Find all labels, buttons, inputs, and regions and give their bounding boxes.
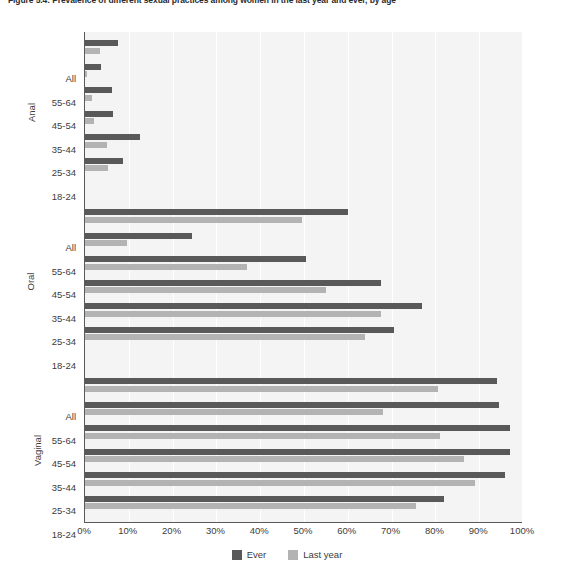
category-label: 25-34 <box>52 505 76 516</box>
bar-oral-All-last-year <box>85 217 302 223</box>
category-label: 18-24 <box>52 360 76 371</box>
bar-anal-55-64-ever <box>85 64 101 70</box>
bar-vaginal-18-24-last-year <box>85 503 416 509</box>
legend-swatch-ever <box>232 550 242 560</box>
group-label-oral: Oral <box>25 272 36 290</box>
category-label: 45-54 <box>52 120 76 131</box>
x-tick-label: 0% <box>77 525 91 536</box>
category-label: All <box>65 411 76 422</box>
chart-plot-area <box>84 32 522 523</box>
x-tick-label: 50% <box>293 525 312 536</box>
bar-oral-18-24-last-year <box>85 334 365 340</box>
bar-anal-25-34-ever <box>85 134 140 140</box>
bar-oral-35-44-ever <box>85 280 381 286</box>
bar-oral-25-34-last-year <box>85 311 381 317</box>
bar-vaginal-55-64-ever <box>85 402 499 408</box>
category-label: 35-44 <box>52 144 76 155</box>
gridline <box>523 32 524 522</box>
category-label: All <box>65 242 76 253</box>
bar-anal-18-24-last-year <box>85 165 108 171</box>
category-label: 45-54 <box>52 458 76 469</box>
bar-oral-18-24-ever <box>85 327 394 333</box>
category-label: 55-64 <box>52 97 76 108</box>
bar-oral-25-34-ever <box>85 303 422 309</box>
legend-label-last_year: Last year <box>303 549 342 560</box>
x-tick-label: 60% <box>337 525 356 536</box>
bar-anal-25-34-last-year <box>85 142 107 148</box>
group-label-vaginal: Vaginal <box>32 435 43 466</box>
bar-vaginal-35-44-ever <box>85 449 510 455</box>
bar-oral-55-64-last-year <box>85 240 127 246</box>
bar-anal-35-44-ever <box>85 111 113 117</box>
figure-title: Figure 5.4: Prevalence of different sexu… <box>8 0 568 5</box>
category-label: 25-34 <box>52 167 76 178</box>
bar-vaginal-35-44-last-year <box>85 456 464 462</box>
bar-vaginal-45-54-last-year <box>85 433 440 439</box>
bar-anal-35-44-last-year <box>85 118 94 124</box>
x-tick-label: 40% <box>250 525 269 536</box>
category-label: 35-44 <box>52 482 76 493</box>
bar-vaginal-All-ever <box>85 378 497 384</box>
x-tick-label: 100% <box>510 525 534 536</box>
legend-item-ever: Ever <box>232 549 267 560</box>
group-label-anal: Anal <box>26 102 37 121</box>
bar-anal-45-54-last-year <box>85 95 92 101</box>
x-tick-label: 20% <box>162 525 181 536</box>
legend-swatch-last_year <box>288 550 298 560</box>
bar-anal-18-24-ever <box>85 158 123 164</box>
category-label: 18-24 <box>52 191 76 202</box>
x-tick-label: 10% <box>118 525 137 536</box>
category-label: 55-64 <box>52 435 76 446</box>
bar-vaginal-All-last-year <box>85 386 438 392</box>
category-label: 35-44 <box>52 313 76 324</box>
legend-label-ever: Ever <box>247 549 267 560</box>
bar-anal-All-last-year <box>85 48 100 54</box>
chart-legend: EverLast year <box>0 549 574 560</box>
x-tick-label: 90% <box>469 525 488 536</box>
bars-layer <box>85 32 522 522</box>
x-tick-label: 80% <box>425 525 444 536</box>
bar-anal-45-54-ever <box>85 87 112 93</box>
bar-vaginal-55-64-last-year <box>85 409 383 415</box>
category-label: 18-24 <box>52 529 76 540</box>
x-axis-tick-labels: 0%10%20%30%40%50%60%70%80%90%100% <box>84 525 522 541</box>
x-tick-label: 70% <box>381 525 400 536</box>
bar-vaginal-18-24-ever <box>85 496 444 502</box>
bar-vaginal-45-54-ever <box>85 425 510 431</box>
bar-anal-All-ever <box>85 40 118 46</box>
bar-oral-All-ever <box>85 209 348 215</box>
bar-oral-35-44-last-year <box>85 287 326 293</box>
bar-oral-55-64-ever <box>85 233 192 239</box>
bar-oral-45-54-last-year <box>85 264 247 270</box>
bar-vaginal-25-34-ever <box>85 472 505 478</box>
category-label: 55-64 <box>52 266 76 277</box>
bar-oral-45-54-ever <box>85 256 306 262</box>
category-label: 25-34 <box>52 336 76 347</box>
category-label: 45-54 <box>52 289 76 300</box>
category-label: All <box>65 73 76 84</box>
legend-item-last_year: Last year <box>288 549 342 560</box>
x-tick-label: 30% <box>206 525 225 536</box>
bar-anal-55-64-last-year <box>85 71 87 77</box>
bar-vaginal-25-34-last-year <box>85 480 475 486</box>
